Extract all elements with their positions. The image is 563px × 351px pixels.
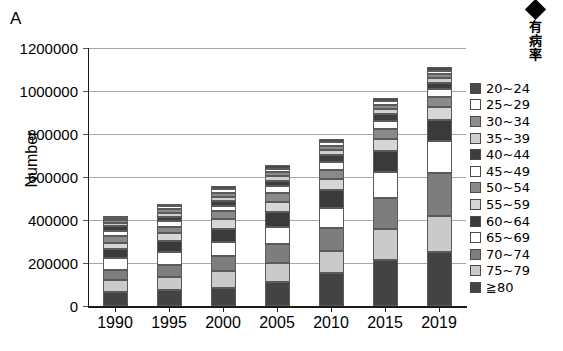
bar-2000 xyxy=(211,186,236,306)
bar-segment xyxy=(427,173,452,216)
bar-segment xyxy=(319,251,344,273)
legend-swatch xyxy=(470,99,481,110)
legend-item: 75~79 xyxy=(470,263,562,280)
bar-segment xyxy=(103,249,128,258)
bar-segment xyxy=(265,282,290,306)
x-tick-mark xyxy=(439,306,440,312)
plot-area xyxy=(88,48,466,306)
x-tick-mark xyxy=(385,306,386,312)
bar-segment xyxy=(373,139,398,151)
legend-label: ≧80 xyxy=(486,281,513,294)
bar-segment xyxy=(373,229,398,260)
legend: 20~2425~2930~3435~3940~4445~4950~5455~59… xyxy=(470,80,562,296)
x-tick-label: 1995 xyxy=(151,314,187,332)
bar-segment xyxy=(265,227,290,245)
y-tick-label: 1000000 xyxy=(20,84,78,99)
bar-series-group xyxy=(88,48,466,306)
bar-segment xyxy=(103,258,128,270)
legend-label: 70~74 xyxy=(486,248,530,261)
legend-item: 25~29 xyxy=(470,97,562,114)
legend-item: 65~69 xyxy=(470,229,562,246)
x-tick-label: 2015 xyxy=(367,314,403,332)
bar-segment xyxy=(103,270,128,280)
legend-item: 20~24 xyxy=(470,80,562,97)
x-tick-label: 2010 xyxy=(313,314,349,332)
bar-segment xyxy=(211,211,236,219)
bar-segment xyxy=(373,198,398,229)
bar-segment xyxy=(373,260,398,306)
x-tick-mark xyxy=(223,306,224,312)
bar-segment xyxy=(427,216,452,252)
x-axis-tick-labels: 1990199520002005201020152019 xyxy=(88,314,467,338)
legend-item: 60~64 xyxy=(470,213,562,230)
bar-segment xyxy=(157,265,182,277)
legend-item: 40~44 xyxy=(470,146,562,163)
legend-item: 70~74 xyxy=(470,246,562,263)
x-tick-mark xyxy=(115,306,116,312)
prevalence-label-char-1: 有 xyxy=(529,20,542,34)
prevalence-label-char-3: 率 xyxy=(529,48,542,62)
bar-segment xyxy=(427,107,452,120)
bar-segment xyxy=(427,120,452,141)
legend-label: 60~64 xyxy=(486,215,530,228)
bar-segment xyxy=(211,242,236,256)
legend-label: 75~79 xyxy=(486,264,530,277)
bar-segment xyxy=(211,219,236,228)
bar-segment xyxy=(373,121,398,129)
bar-segment xyxy=(103,236,128,243)
panel-letter: A xyxy=(10,10,21,27)
x-tick-label: 2005 xyxy=(259,314,295,332)
bar-segment xyxy=(211,271,236,288)
x-tick-label: 1990 xyxy=(97,314,133,332)
bar-segment xyxy=(157,277,182,290)
legend-label: 30~34 xyxy=(486,115,530,128)
bar-segment xyxy=(427,89,452,97)
y-tick-label: 1200000 xyxy=(20,41,78,56)
legend-swatch xyxy=(470,166,481,177)
legend-item: ≧80 xyxy=(470,279,562,296)
bar-segment xyxy=(265,244,290,262)
bar-segment xyxy=(373,151,398,172)
legend-item: 30~34 xyxy=(470,113,562,130)
bar-segment xyxy=(319,208,344,228)
bar-segment xyxy=(319,190,344,208)
bar-segment xyxy=(319,155,344,162)
legend-label: 45~49 xyxy=(486,165,530,178)
bar-segment xyxy=(211,288,236,306)
bar-segment xyxy=(373,114,398,121)
x-tick-label: 2000 xyxy=(205,314,241,332)
bar-segment xyxy=(211,229,236,242)
y-tick-label: 400000 xyxy=(28,213,78,228)
bar-segment xyxy=(265,212,290,227)
bar-segment xyxy=(103,292,128,306)
diamond-icon xyxy=(524,0,545,20)
bar-segment xyxy=(157,290,182,306)
legend-label: 50~54 xyxy=(486,181,530,194)
legend-swatch xyxy=(470,199,481,210)
legend-swatch xyxy=(470,282,481,293)
legend-item: 35~39 xyxy=(470,130,562,147)
bar-segment xyxy=(373,129,398,139)
y-tick-label: 0 xyxy=(70,299,78,314)
y-tick-label: 800000 xyxy=(28,127,78,142)
bar-segment xyxy=(265,193,290,202)
bar-segment xyxy=(319,162,344,170)
legend-swatch xyxy=(470,133,481,144)
legend-swatch xyxy=(470,232,481,243)
prevalence-marker: 有 病 率 xyxy=(513,2,557,62)
bar-segment xyxy=(319,179,344,190)
bar-2019 xyxy=(427,67,452,306)
legend-label: 25~29 xyxy=(486,98,530,111)
x-tick-mark xyxy=(277,306,278,312)
legend-swatch xyxy=(470,216,481,227)
bar-segment xyxy=(319,170,344,179)
bar-segment xyxy=(157,233,182,241)
prevalence-label-char-2: 病 xyxy=(529,34,542,48)
bar-segment xyxy=(427,97,452,107)
y-tick-label: 600000 xyxy=(28,170,78,185)
x-tick-mark xyxy=(169,306,170,312)
bar-segment xyxy=(157,252,182,265)
bar-segment xyxy=(319,228,344,251)
bar-segment xyxy=(211,256,236,272)
legend-swatch xyxy=(470,149,481,160)
